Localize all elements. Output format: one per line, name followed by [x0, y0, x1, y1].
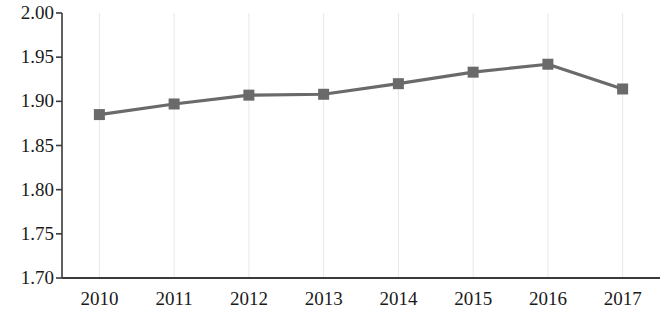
x-axis-label: 2012	[209, 289, 289, 308]
x-axis-tick-labels: 20102011201220132014201520162017	[0, 0, 667, 314]
x-axis-label: 2014	[358, 289, 438, 308]
x-axis-label: 2015	[433, 289, 513, 308]
x-axis-label: 2010	[59, 289, 139, 308]
x-axis-label: 2016	[508, 289, 588, 308]
x-axis-label: 2017	[583, 289, 663, 308]
x-axis-label: 2011	[134, 289, 214, 308]
line-chart: 2.001.951.901.851.801.751.70 20102011201…	[0, 0, 667, 314]
x-axis-label: 2013	[284, 289, 364, 308]
